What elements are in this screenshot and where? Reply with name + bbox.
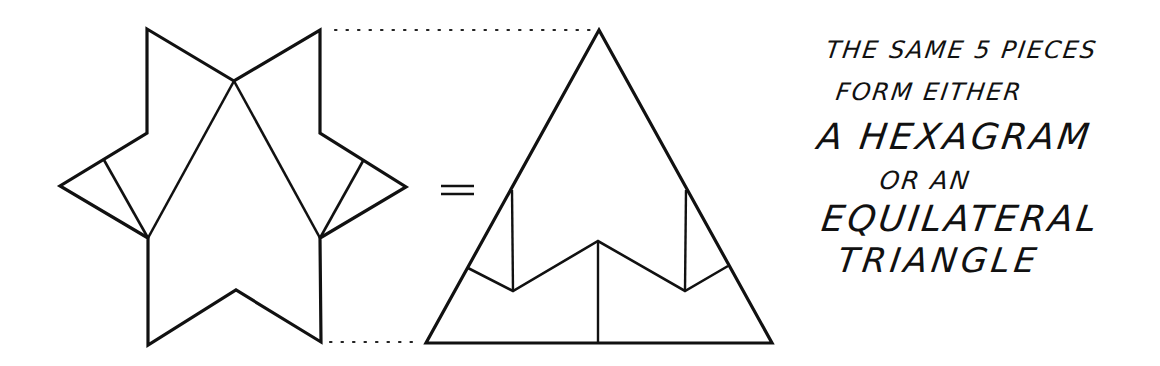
caption-line-2: FORM EITHER <box>834 78 1024 106</box>
hexagram-outline <box>60 29 406 345</box>
triangle-cut-right-vertical <box>685 190 686 291</box>
caption-line-1: THE SAME 5 PIECES <box>824 36 1099 64</box>
caption-line-6: TRIANGLE <box>835 240 1043 280</box>
hexagram <box>60 29 406 345</box>
hexagram-cut-left-diagonal <box>148 81 234 238</box>
equilateral-triangle <box>426 30 772 343</box>
caption-line-4: OR AN <box>878 166 973 195</box>
equals-sign <box>441 186 474 194</box>
caption-line-3: A HEXAGRAM <box>815 116 1095 157</box>
caption-line-5: EQUILATERAL <box>819 198 1102 239</box>
triangle-cut-left-vertical <box>512 190 513 291</box>
hexagram-cut-right-diagonal <box>234 81 320 238</box>
